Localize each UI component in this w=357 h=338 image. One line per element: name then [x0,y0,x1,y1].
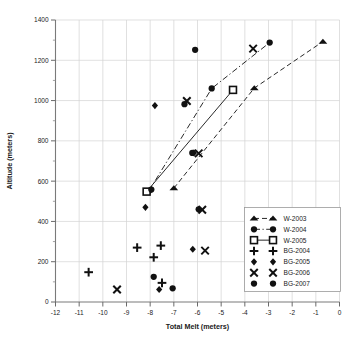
data-point-marker [209,85,215,91]
data-point-marker [170,285,176,291]
data-point-marker [113,286,121,294]
y-tick-label: 1200 [34,57,49,64]
x-tick-label: 0 [338,309,342,316]
x-tick-label: -9 [124,309,130,316]
legend-label: BG-2007 [284,280,311,287]
legend-marker-right [270,280,276,286]
series-bg-2005 [142,102,197,293]
y-tick-label: 600 [38,178,49,185]
x-tick-label: -8 [147,309,153,316]
legend-marker-left [251,237,258,244]
series-bg-2006 [113,45,257,293]
axis-titles: Total Melt (meters)Altitude (meters) [5,132,230,331]
x-tick-label: -1 [313,309,319,316]
legend-marker-left [251,280,257,286]
x-tick-label: -5 [218,309,224,316]
data-point-marker [190,246,196,253]
legend-marker-right [270,237,277,244]
x-tick-label: -12 [51,309,61,316]
series-bg-2004 [84,241,166,287]
data-point-marker [189,150,195,156]
x-tick-label: -2 [289,309,295,316]
data-point-marker [230,86,237,93]
series-w-2003 [169,39,327,191]
data-point-marker [267,39,273,45]
data-point-marker [156,241,165,250]
x-axis-title: Total Melt (meters) [166,322,230,331]
data-point-marker [142,204,148,211]
data-point-marker [319,39,328,44]
data-point-marker [152,102,158,109]
scatter-plot: -12-11-10-9-8-7-6-5-4-3-2-10020040060080… [0,0,357,338]
series-bg-2007 [148,47,202,292]
legend-marker-right [270,226,276,232]
y-tick-label: 0 [45,298,49,305]
data-point-marker [201,247,209,255]
legend: W-2003W-2004W-2005BG-2004BG-2005BG-2006B… [245,208,341,292]
x-tick-label: -11 [75,309,84,316]
y-tick-label: 200 [38,258,49,265]
y-tick-label: 1400 [34,16,49,23]
y-tick-label: 400 [38,218,49,225]
data-point-marker [151,274,157,280]
x-tick-label: -6 [195,309,201,316]
y-tick-label: 800 [38,137,49,144]
y-axis-title: Altitude (meters) [5,132,14,190]
data-point-marker [196,206,202,212]
data-point-marker [249,45,257,53]
legend-label: BG-2004 [284,247,311,254]
x-tick-label: -7 [171,309,177,316]
y-tick-label: 1000 [34,97,49,104]
x-tick-label: -3 [266,309,272,316]
chart-figure: -12-11-10-9-8-7-6-5-4-3-2-10020040060080… [0,0,357,338]
trend-lines [147,42,323,192]
legend-label: BG-2006 [284,269,311,276]
legend-label: W-2003 [284,215,307,222]
data-point-marker [133,243,142,252]
data-point-marker [192,47,198,53]
data-point-marker [181,101,187,107]
data-point-marker [169,185,178,190]
legend-marker-left [251,226,257,232]
data-point-marker [148,186,154,192]
trend-line-w-2004 [149,43,270,191]
trend-line-w-2003 [174,42,323,189]
x-tick-label: -10 [98,309,108,316]
legend-label: W-2005 [284,237,307,244]
data-point-marker [158,279,167,288]
data-point-marker [149,253,158,262]
legend-label: W-2004 [284,226,307,233]
data-point-marker [84,268,93,277]
legend-label: BG-2005 [284,258,311,265]
x-tick-label: -4 [242,309,248,316]
